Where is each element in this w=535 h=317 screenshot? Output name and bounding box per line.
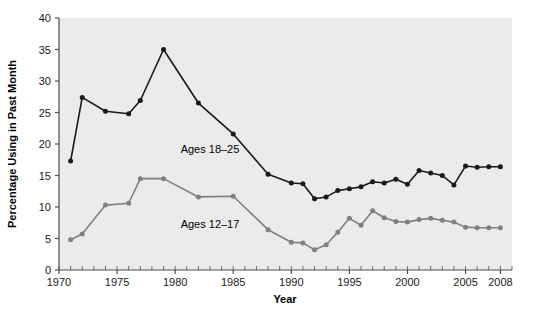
series-label-ages-18-25: Ages 18–25 (181, 143, 240, 155)
data-point-ages-18-25 (289, 181, 294, 186)
data-point-ages-12-17 (463, 225, 468, 230)
data-point-ages-18-25 (405, 182, 410, 187)
y-tick-label: 5 (45, 233, 51, 245)
data-point-ages-18-25 (440, 173, 445, 178)
data-point-ages-12-17 (393, 219, 398, 224)
chart-figure: 0510152025303540 19701975198019851990199… (0, 0, 535, 317)
data-point-ages-12-17 (289, 240, 294, 245)
x-tick-label: 2008 (488, 276, 512, 288)
data-point-ages-18-25 (231, 131, 236, 136)
plot-area-background (59, 18, 512, 270)
x-tick-label: 2000 (395, 276, 419, 288)
data-point-ages-18-25 (393, 177, 398, 182)
x-tick-label: 1985 (221, 276, 245, 288)
data-point-ages-18-25 (498, 164, 503, 169)
data-point-ages-12-17 (161, 176, 166, 181)
data-point-ages-12-17 (300, 240, 305, 245)
data-point-ages-18-25 (138, 98, 143, 103)
data-point-ages-12-17 (335, 230, 340, 235)
data-point-ages-18-25 (382, 181, 387, 186)
data-point-ages-18-25 (370, 179, 375, 184)
data-point-ages-12-17 (196, 194, 201, 199)
data-point-ages-12-17 (312, 247, 317, 252)
x-tick-label: 2005 (453, 276, 477, 288)
data-point-ages-12-17 (231, 194, 236, 199)
x-tick-label: 1970 (47, 276, 71, 288)
data-point-ages-18-25 (68, 159, 73, 164)
x-tick-label: 1995 (337, 276, 361, 288)
data-point-ages-12-17 (382, 215, 387, 220)
data-point-ages-18-25 (300, 181, 305, 186)
y-tick-label: 40 (39, 12, 51, 24)
data-point-ages-18-25 (312, 196, 317, 201)
y-tick-label: 30 (39, 75, 51, 87)
data-point-ages-12-17 (138, 176, 143, 181)
data-point-ages-18-25 (126, 111, 131, 116)
data-point-ages-18-25 (486, 164, 491, 169)
data-point-ages-12-17 (126, 201, 131, 206)
data-point-ages-18-25 (324, 194, 329, 199)
data-point-ages-18-25 (161, 47, 166, 52)
data-point-ages-12-17 (475, 225, 480, 230)
data-point-ages-12-17 (266, 227, 271, 232)
data-point-ages-18-25 (451, 182, 456, 187)
data-point-ages-18-25 (417, 168, 422, 173)
data-point-ages-18-25 (463, 164, 468, 169)
data-point-ages-12-17 (486, 225, 491, 230)
data-point-ages-18-25 (475, 165, 480, 170)
data-point-ages-18-25 (266, 172, 271, 177)
data-point-ages-18-25 (428, 170, 433, 175)
series-label-ages-12-17: Ages 12–17 (181, 218, 240, 230)
y-tick-label: 35 (39, 44, 51, 56)
x-tick-label: 1990 (279, 276, 303, 288)
data-point-ages-12-17 (417, 217, 422, 222)
data-point-ages-18-25 (359, 184, 364, 189)
data-point-ages-18-25 (347, 186, 352, 191)
data-point-ages-18-25 (335, 188, 340, 193)
data-point-ages-18-25 (80, 95, 85, 100)
y-tick-label: 20 (39, 138, 51, 150)
data-point-ages-12-17 (324, 242, 329, 247)
y-tick-label: 10 (39, 201, 51, 213)
data-point-ages-12-17 (68, 237, 73, 242)
line-chart: 0510152025303540 19701975198019851990199… (0, 0, 535, 317)
data-point-ages-12-17 (347, 216, 352, 221)
data-point-ages-12-17 (359, 223, 364, 228)
y-axis-label: Percentage Using in Past Month (6, 60, 18, 228)
data-point-ages-12-17 (428, 216, 433, 221)
y-tick-label: 25 (39, 107, 51, 119)
data-point-ages-12-17 (451, 220, 456, 225)
y-tick-label: 15 (39, 170, 51, 182)
data-point-ages-12-17 (80, 232, 85, 237)
data-point-ages-12-17 (370, 208, 375, 213)
data-point-ages-12-17 (405, 220, 410, 225)
x-tick-label: 1975 (105, 276, 129, 288)
x-tick-label: 1980 (163, 276, 187, 288)
data-point-ages-18-25 (103, 109, 108, 114)
data-point-ages-18-25 (196, 101, 201, 106)
data-point-ages-12-17 (103, 203, 108, 208)
y-tick-label: 0 (45, 264, 51, 276)
x-axis-label: Year (273, 293, 297, 305)
data-point-ages-12-17 (440, 218, 445, 223)
data-point-ages-12-17 (498, 225, 503, 230)
